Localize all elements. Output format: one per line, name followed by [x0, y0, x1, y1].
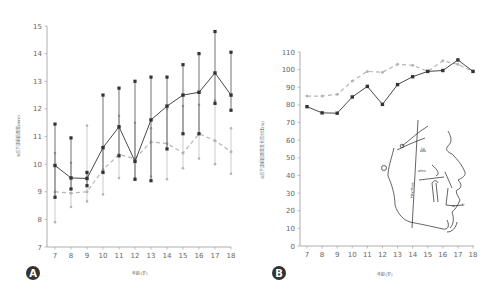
data-point [182, 152, 185, 155]
x-tick-label: 9 [85, 252, 89, 260]
series-solid [53, 30, 232, 199]
x-tick-label: 8 [320, 251, 324, 259]
y-axis-title-a: B点下颌前后距离(mm) [15, 115, 21, 157]
series-line [55, 134, 231, 193]
x-tick-label: 14 [163, 252, 172, 260]
panel-badge-b-label: B [275, 268, 283, 279]
y-tick-label: 12 [33, 105, 42, 113]
label-ptm: Ptm [420, 169, 426, 173]
x-tick-label: 7 [53, 252, 57, 260]
data-point [411, 75, 414, 78]
error-cap [133, 178, 136, 181]
data-point [366, 85, 369, 88]
data-point [230, 150, 233, 153]
series-dashed [54, 99, 233, 223]
y-tick-label: 8 [38, 216, 42, 224]
data-point [441, 59, 444, 62]
error-cap [165, 76, 168, 79]
data-point [214, 139, 217, 142]
y-ticks-b: 0102030405060708090100110 [282, 49, 300, 251]
error-cap [86, 200, 89, 203]
data-point [306, 95, 309, 98]
data-point [351, 95, 354, 98]
error-cap [149, 179, 152, 182]
panel-badge-a-label: A [29, 268, 37, 279]
error-cap [197, 132, 200, 135]
data-point [181, 93, 184, 96]
y-tick-label: 90 [286, 84, 295, 92]
data-point [366, 70, 369, 73]
y-tick-label: 13 [33, 78, 42, 86]
y-ticks-a: 789101112131415 [33, 23, 47, 252]
label-b: B' [462, 203, 465, 207]
data-point [411, 64, 414, 67]
data-point [396, 83, 399, 86]
x-tick-label: 7 [305, 251, 309, 259]
data-point [441, 69, 444, 72]
error-cap [117, 154, 120, 157]
figure: 789101112131415 789101112131415161718 B点… [0, 0, 487, 291]
error-cap [85, 184, 88, 187]
y-tick-label: 0 [291, 243, 295, 251]
x-tick-label: 17 [211, 252, 220, 260]
error-cap [53, 122, 56, 125]
y-tick-label: 70 [286, 119, 295, 127]
error-cap [149, 76, 152, 79]
x-tick-label: 11 [363, 251, 372, 259]
series-a [53, 30, 232, 224]
error-cap [69, 187, 72, 190]
error-cap [54, 221, 57, 224]
data-point [165, 104, 168, 107]
y-tick-label: 20 [286, 207, 295, 215]
error-cap [181, 132, 184, 135]
error-cap [86, 124, 89, 127]
y-tick-label: 60 [286, 137, 295, 145]
y-tick-label: 9 [38, 188, 42, 196]
panel-badge-b: B [272, 266, 286, 280]
x-tick-label: 13 [393, 251, 402, 259]
y-tick-label: 15 [33, 23, 42, 31]
data-point [381, 71, 384, 74]
data-point [229, 93, 232, 96]
x-tick-label: 10 [99, 252, 108, 260]
y-tick-label: 14 [33, 50, 42, 58]
label-pmv-plane: PMV Plane [410, 182, 415, 198]
x-tick-label: 9 [335, 251, 339, 259]
x-tick-label: 13 [147, 252, 156, 260]
data-point [133, 160, 136, 163]
error-cap [69, 136, 72, 139]
error-cap [182, 167, 185, 170]
error-cap [213, 102, 216, 105]
x-tick-label: 15 [179, 252, 188, 260]
error-cap [181, 63, 184, 66]
series-b [305, 58, 474, 115]
x-ticks-b: 789101112131415161718 [305, 246, 478, 259]
error-cap [230, 127, 233, 130]
x-tick-label: 17 [453, 251, 462, 259]
x-tick-label: 14 [408, 251, 417, 259]
x-tick-label: 12 [378, 251, 387, 259]
error-cap [214, 163, 217, 166]
y-tick-label: 40 [286, 172, 295, 180]
data-point [321, 95, 324, 98]
error-cap [102, 193, 105, 196]
data-point [197, 91, 200, 94]
error-cap [198, 157, 201, 160]
series-line [307, 61, 473, 96]
error-cap [197, 52, 200, 55]
y-tick-label: 11 [33, 133, 42, 141]
x-tick-label: 16 [195, 252, 204, 260]
x-tick-label: 15 [423, 251, 432, 259]
data-point [351, 80, 354, 83]
series-dashed [306, 59, 475, 97]
error-cap [85, 171, 88, 174]
data-point [70, 192, 73, 195]
data-point [426, 70, 429, 73]
data-point [305, 105, 308, 108]
data-point [471, 70, 474, 73]
x-ticks-a: 789101112131415161718 [53, 247, 236, 260]
x-tick-label: 18 [227, 252, 236, 260]
data-point [320, 111, 323, 114]
data-point [85, 177, 88, 180]
label-se: Se [421, 147, 425, 151]
